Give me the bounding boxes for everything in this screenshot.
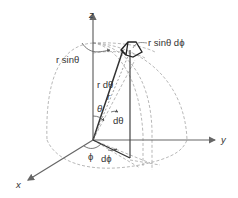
r-sin-theta-dphi-label: r sinθ dϕ: [148, 38, 184, 48]
z-axis-label: z: [89, 10, 94, 20]
x-axis-label: x: [16, 180, 21, 190]
dphi-label: dϕ: [101, 154, 112, 164]
y-axis-label: y: [221, 135, 226, 145]
spherical-volume-element-diagram: z y x r sinθ r sinθ dϕ r dθ r θ dθ ϕ dϕ: [0, 0, 238, 198]
r-sin-theta-label: r sinθ: [56, 55, 79, 65]
r-dtheta-label: r dθ: [97, 80, 113, 90]
diagram-graphics: [0, 0, 238, 198]
dtheta-label: dθ: [113, 116, 124, 126]
theta-label: θ: [97, 104, 102, 114]
phi-label: ϕ: [88, 152, 93, 162]
x-axis: [28, 140, 93, 180]
axes: [28, 14, 215, 180]
r-label: r: [107, 92, 110, 102]
